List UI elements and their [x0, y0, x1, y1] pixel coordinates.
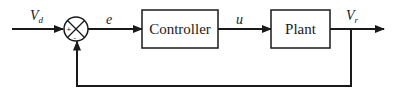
control-label: u: [236, 12, 243, 27]
output-signal: Vr: [330, 8, 384, 29]
error-signal: e: [88, 12, 142, 29]
controller-block: Controller: [142, 10, 218, 48]
output-label: Vr: [346, 8, 359, 25]
control-block-diagram: Vd + - e Controller u Plant Vr: [0, 0, 393, 98]
minus-sign: -: [74, 33, 77, 42]
controller-label: Controller: [149, 21, 211, 37]
error-label: e: [106, 12, 112, 27]
plant-label: Plant: [285, 21, 317, 37]
summing-junction: + -: [64, 17, 88, 42]
plus-sign: +: [67, 25, 72, 34]
control-signal: u: [218, 12, 271, 29]
plant-block: Plant: [271, 10, 330, 48]
input-signal: Vd: [12, 8, 63, 29]
input-label: Vd: [30, 8, 44, 25]
